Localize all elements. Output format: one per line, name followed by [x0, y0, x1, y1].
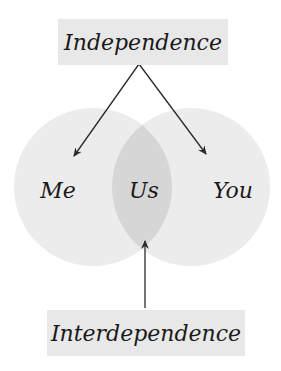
- independence-label: Independence: [64, 30, 222, 55]
- venn-diagram: Independence Me Us You Interdependence: [0, 0, 281, 371]
- us-label: Us: [129, 178, 159, 203]
- interdependence-label: Interdependence: [51, 321, 241, 346]
- independence-label-box: Independence: [58, 19, 228, 65]
- you-label: You: [213, 178, 253, 203]
- interdependence-label-box: Interdependence: [47, 310, 245, 356]
- me-label: Me: [40, 178, 76, 203]
